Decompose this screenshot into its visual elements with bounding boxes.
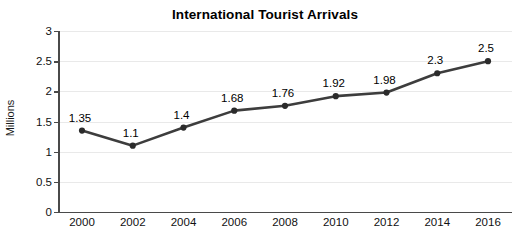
data-point-label: 1.4: [174, 109, 190, 121]
data-point-marker: [383, 89, 389, 95]
data-point-marker: [434, 70, 440, 76]
data-point-label: 1.76: [272, 87, 294, 99]
data-point-label: 1.35: [69, 112, 91, 124]
data-point-marker: [485, 58, 491, 64]
chart-container: International Tourist Arrivals Millions …: [0, 0, 530, 246]
data-point-marker: [130, 143, 136, 149]
data-point-marker: [282, 103, 288, 109]
data-point-marker: [180, 124, 186, 130]
data-point-label: 2.5: [478, 42, 494, 54]
data-point-label: 1.68: [221, 92, 243, 104]
data-point-label: 2.3: [427, 54, 443, 66]
data-point-label: 1.92: [323, 77, 345, 89]
data-point-marker: [333, 93, 339, 99]
data-point-label: 1.1: [123, 127, 139, 139]
data-point-marker: [231, 108, 237, 114]
data-point-label: 1.98: [373, 74, 395, 86]
data-point-marker: [79, 127, 85, 133]
